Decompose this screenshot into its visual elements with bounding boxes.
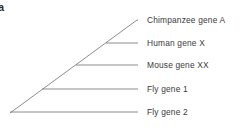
cladogram-figure: a Chimpanzee gene AHuman gene XMouse gen… <box>0 0 240 137</box>
tree-lines <box>10 20 138 113</box>
cladogram-tree-svg <box>0 0 240 137</box>
tree-backbone <box>10 20 137 113</box>
